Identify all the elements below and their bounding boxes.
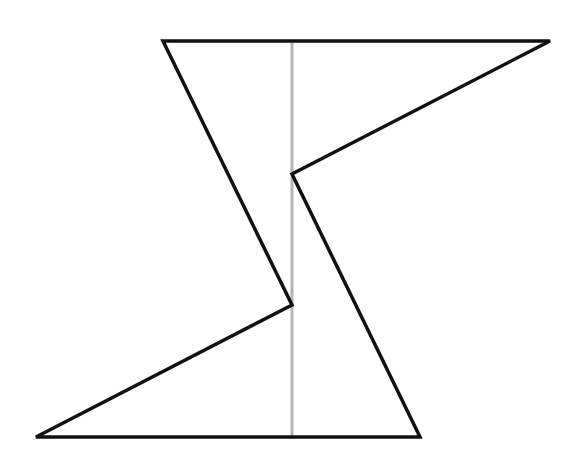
diagram-canvas <box>0 0 579 463</box>
